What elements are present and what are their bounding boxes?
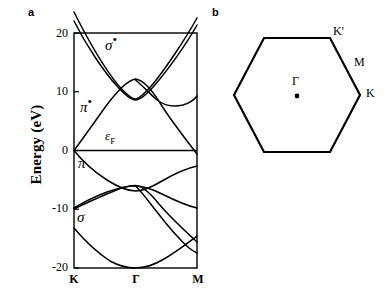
bz-label-gamma: Γ — [292, 74, 299, 89]
bz-label-k: K — [366, 86, 375, 101]
figure-container: a b Energy (eV) 20 10 0 -10 -20 K Γ M σ•… — [0, 0, 388, 305]
gamma-point-marker — [295, 94, 300, 99]
bz-label-k-prime: K' — [333, 24, 344, 39]
brillouin-zone-diagram — [0, 0, 388, 305]
bz-label-m: M — [354, 55, 365, 70]
